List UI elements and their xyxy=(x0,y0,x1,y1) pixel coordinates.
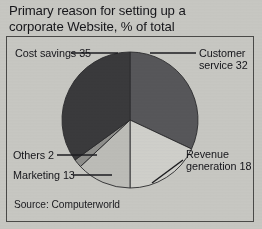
pie-chart-svg xyxy=(0,0,262,229)
slice-label-customer-service-line1: Customer xyxy=(199,47,248,59)
pie-slices xyxy=(62,52,198,188)
slice-label-customer-service-line2: service 32 xyxy=(199,59,248,71)
slice-label-others: Others 2 xyxy=(13,149,54,161)
source-caption: Source: Computerworld xyxy=(14,199,120,210)
pie-chart xyxy=(0,0,262,229)
slice-label-marketing-text: Marketing 13 xyxy=(13,169,75,181)
slice-label-cost-savings-text: Cost savings 35 xyxy=(15,47,91,59)
chart-figure: Primary reason for setting up a corporat… xyxy=(0,0,262,229)
slice-label-customer-service: Customer service 32 xyxy=(199,47,248,72)
slice-label-cost-savings: Cost savings 35 xyxy=(15,47,91,59)
slice-label-revenue-generation-line2: generation 18 xyxy=(186,160,251,172)
slice-label-marketing: Marketing 13 xyxy=(13,169,75,181)
slice-label-others-text: Others 2 xyxy=(13,149,54,161)
slice-label-revenue-generation-line1: Revenue xyxy=(186,148,251,160)
slice-label-revenue-generation: Revenue generation 18 xyxy=(186,148,251,173)
